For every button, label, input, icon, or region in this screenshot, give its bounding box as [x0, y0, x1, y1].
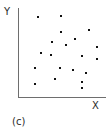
plot-area: Y X	[0, 0, 111, 112]
data-point	[54, 78, 56, 80]
data-point	[72, 69, 74, 71]
data-point	[88, 29, 90, 31]
data-point	[85, 72, 87, 74]
data-point	[34, 67, 36, 69]
data-point	[96, 58, 98, 60]
data-point	[81, 81, 83, 83]
data-point	[60, 31, 62, 33]
figure-caption: (c)	[12, 116, 25, 127]
data-point	[65, 44, 67, 46]
data-point	[37, 16, 39, 18]
x-axis-line	[18, 97, 106, 98]
data-point	[96, 46, 98, 48]
y-axis-label: Y	[4, 7, 10, 17]
scatter-plot-figure: Y X (c)	[0, 0, 111, 135]
y-axis-line	[18, 8, 19, 98]
x-axis-label: X	[92, 101, 99, 111]
data-point	[51, 41, 53, 43]
data-point	[34, 83, 36, 85]
data-point	[59, 67, 61, 69]
data-point	[60, 15, 62, 17]
data-point	[40, 52, 42, 54]
data-point	[81, 55, 83, 57]
data-point	[74, 38, 76, 40]
data-point	[50, 54, 52, 56]
data-point	[81, 87, 83, 89]
